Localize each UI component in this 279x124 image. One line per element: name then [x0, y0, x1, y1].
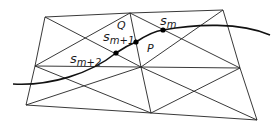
mesh-edge: [141, 67, 151, 113]
mesh-edge: [35, 17, 45, 66]
mesh-edge: [141, 10, 223, 67]
mesh-edge: [26, 66, 35, 105]
label-s-m: sm: [160, 13, 177, 30]
mesh-edge: [240, 68, 257, 120]
mesh-edges: [26, 10, 257, 120]
label-s-m-plus-2: sm+2: [70, 51, 101, 68]
label-p: P: [147, 42, 154, 55]
point-s_m: [160, 27, 165, 32]
mesh-edge: [223, 10, 240, 68]
label-q: Q: [117, 19, 126, 32]
mesh-edge: [26, 105, 151, 113]
point-s_m+2: [113, 50, 118, 55]
mesh-edge: [130, 10, 223, 13]
mesh-edge: [151, 113, 257, 120]
mesh-diagram: sm sm+1 sm+2 Q P: [0, 0, 279, 124]
mesh-edge: [141, 67, 257, 120]
mesh-edge: [130, 13, 240, 68]
solution-curve: [13, 25, 270, 84]
mesh-edge: [45, 13, 130, 17]
mesh-edge: [141, 67, 240, 68]
mesh-edge: [35, 66, 151, 113]
